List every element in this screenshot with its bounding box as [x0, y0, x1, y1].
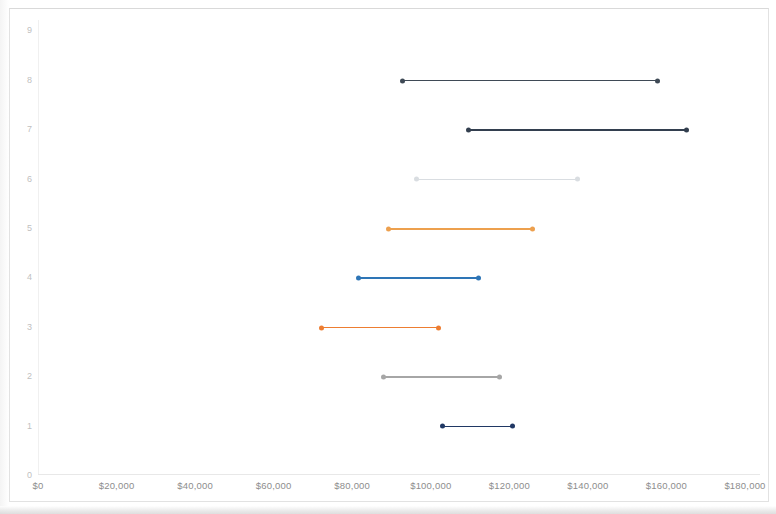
chart-frame [9, 8, 769, 502]
scanned-page: 0123456789 $0$20,000$40,000$60,000$80,00… [0, 0, 776, 514]
scan-edge-bottom [0, 506, 776, 514]
scan-edge-left [0, 0, 9, 514]
